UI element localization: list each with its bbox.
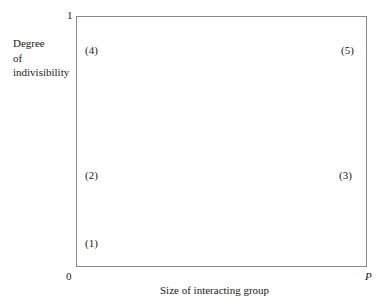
y-axis-label-line-3: indivisibility [13,65,69,80]
point-3-label: (3) [339,169,352,182]
y-axis-top-tick: 1 [67,9,73,22]
x-axis-end-tick: P [365,270,372,283]
y-axis-label-line-2: of [13,51,69,66]
origin-tick: 0 [66,270,72,283]
diagram-frame [76,16,367,267]
x-axis-label: Size of interacting group [160,284,269,297]
point-4-label: (4) [85,44,98,57]
point-1-label: (1) [85,237,98,250]
point-5-label: (5) [341,44,354,57]
y-axis-label: Degree of indivisibility [13,36,69,80]
point-2-label: (2) [85,169,98,182]
y-axis-label-line-1: Degree [13,36,69,51]
